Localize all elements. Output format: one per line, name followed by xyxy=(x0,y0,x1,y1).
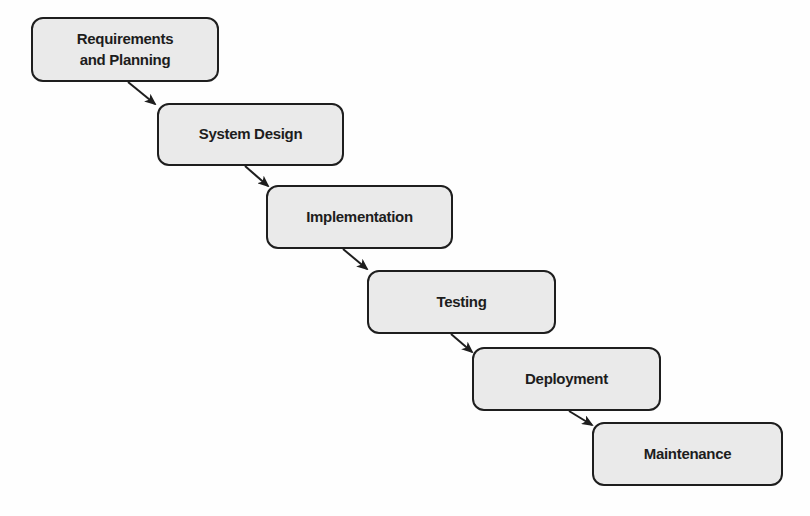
step-label: Maintenance xyxy=(644,444,732,464)
step-label: Testing xyxy=(436,292,486,312)
step-requirements-planning: Requirements and Planning xyxy=(31,17,219,82)
step-testing: Testing xyxy=(367,270,556,334)
step-maintenance: Maintenance xyxy=(592,422,783,486)
arrow-3 xyxy=(343,249,367,269)
step-label: Implementation xyxy=(306,207,413,227)
arrow-4 xyxy=(451,334,472,352)
arrow-5 xyxy=(569,411,592,425)
step-deployment: Deployment xyxy=(472,347,661,411)
step-label: Requirements and Planning xyxy=(77,29,173,70)
step-label: Deployment xyxy=(525,369,608,389)
step-system-design: System Design xyxy=(157,103,344,166)
arrow-2 xyxy=(245,166,268,186)
arrow-1 xyxy=(128,82,155,104)
waterfall-diagram: Requirements and Planning System Design … xyxy=(0,0,810,516)
step-label: System Design xyxy=(199,124,303,144)
step-implementation: Implementation xyxy=(266,185,453,249)
